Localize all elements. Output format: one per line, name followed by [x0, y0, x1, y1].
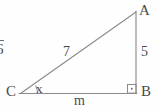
horizontal-leg-length-label: m	[74, 94, 85, 108]
radical-fragment: 6	[0, 40, 4, 57]
angle-label-x: x	[36, 82, 43, 95]
right-angle-dot	[131, 88, 133, 90]
hypotenuse-length-label: 7	[63, 45, 70, 59]
radicand-text: 6	[0, 40, 4, 57]
vertex-label-a: A	[139, 3, 150, 18]
vertex-label-b: B	[141, 84, 151, 99]
vertex-label-c: C	[6, 84, 16, 99]
vertical-leg-length-label: 5	[141, 45, 148, 59]
geometry-figure: A B C 7 5 m x 6	[0, 0, 159, 109]
